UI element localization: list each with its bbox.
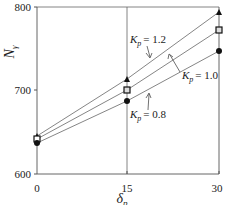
arrow-line: [170, 55, 180, 72]
annotation-kp-0.8: Kp= 0.8: [129, 93, 167, 123]
triangle-marker-icon: [124, 76, 130, 82]
x-tick-0: 0: [34, 182, 40, 194]
x-tick-30: 30: [212, 182, 224, 194]
chart: 800 700 600 Nγ 0 15 30 δp Kp= 1.2: [0, 0, 226, 205]
square-marker-icon: [216, 27, 222, 33]
y-tick-700: 700: [15, 84, 32, 96]
circle-marker-icon: [216, 48, 222, 54]
circle-marker-icon: [124, 98, 130, 104]
circle-marker-icon: [34, 140, 40, 146]
line-kp-0.8: [37, 51, 219, 143]
triangle-marker-icon: [216, 9, 222, 15]
svg-text:Kp= 0.8: Kp= 0.8: [129, 108, 167, 123]
y-tick-800: 800: [15, 1, 32, 13]
svg-text:Nγ: Nγ: [2, 45, 19, 59]
markers-kp-1.2: [34, 9, 222, 139]
y-axis: 800 700 600 Nγ: [2, 1, 37, 180]
x-tick-15: 15: [122, 182, 134, 194]
svg-text:Kp= 1.2: Kp= 1.2: [129, 33, 166, 48]
y-tick-600: 600: [15, 168, 32, 180]
x-axis: 0 15 30 δp: [34, 171, 223, 205]
y-axis-label: Nγ: [2, 45, 19, 59]
markers-kp-1.0: [34, 27, 222, 142]
line-kp-1.0: [37, 30, 219, 139]
svg-text:Kp= 1.0: Kp= 1.0: [181, 69, 219, 84]
line-kp-1.2: [37, 12, 219, 136]
square-marker-icon: [124, 87, 130, 93]
